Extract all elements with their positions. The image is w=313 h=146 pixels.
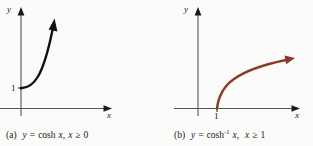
x-tick-label-b: 1 (214, 112, 219, 121)
caption-b-tag: (b) (174, 130, 185, 140)
cosh-curve-a (21, 19, 57, 89)
caption-a-relation: ≥ (75, 130, 80, 140)
caption-a-var-y: y (23, 130, 27, 140)
caption-a-func: cosh (38, 130, 55, 140)
plot-a-graphic (0, 0, 157, 125)
arccosh-curve-b (217, 55, 295, 108)
plot-b-graphic (156, 0, 313, 125)
caption-b-exponent: -1 (224, 128, 229, 135)
caption-a-tag: (a) (6, 130, 17, 140)
panel-a: y x 1 (a)y=coshx,x≥0 (0, 0, 157, 146)
y-axis-label-b: y (184, 5, 188, 14)
caption-b-comma: , (237, 130, 239, 140)
curve-arrowhead-a (49, 19, 58, 32)
caption-a-equals: = (30, 130, 35, 140)
caption-a-domain-var: x (68, 130, 72, 140)
curve-arrowhead-b (285, 55, 296, 64)
y-axis-b (195, 7, 202, 116)
y-axis-a (18, 7, 25, 116)
figure-container: y x 1 (a)y=coshx,x≥0 (0, 0, 313, 146)
y-axis-label-a: y (7, 5, 11, 14)
caption-a-comma: , (63, 130, 65, 140)
caption-b-domain-var: x (245, 130, 249, 140)
caption-b-func: cosh (207, 130, 224, 140)
caption-b-domain-value: 1 (261, 130, 266, 140)
x-axis-label-b: x (295, 111, 299, 120)
caption-a-domain-value: 0 (84, 130, 89, 140)
caption-b-var-y: y (191, 130, 195, 140)
caption-b-equals: = (198, 130, 203, 140)
y-tick-label-a: 1 (11, 84, 16, 93)
caption-b-relation: ≥ (252, 130, 257, 140)
x-axis-label-a: x (107, 111, 111, 120)
caption-b: (b)y=cosh-1x,x≥1 (174, 131, 265, 141)
x-axis-b (174, 105, 300, 112)
caption-a: (a)y=coshx,x≥0 (6, 131, 88, 141)
panel-b: y x 1 (b)y=cosh-1x,x≥1 (156, 0, 313, 146)
x-axis-a (0, 105, 112, 112)
